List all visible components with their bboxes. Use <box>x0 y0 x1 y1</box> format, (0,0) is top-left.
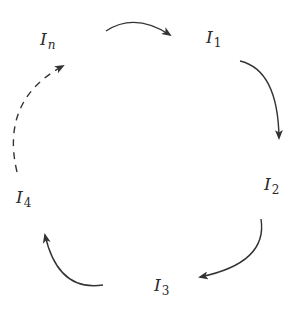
node-subscript: n <box>48 38 56 52</box>
node-subscript: 1 <box>214 36 222 50</box>
node-subscript: 4 <box>24 196 32 210</box>
node-base: I <box>16 187 23 207</box>
edge-i1-to-i2 <box>240 61 279 138</box>
node-subscript: 3 <box>162 284 170 298</box>
node-base: I <box>206 27 213 47</box>
edge-i4-to-in-dashed <box>13 66 63 172</box>
node-subscript: 2 <box>272 183 280 197</box>
node-base: I <box>154 275 161 295</box>
node-label-i1: I1 <box>206 29 221 49</box>
node-label-i3: I3 <box>154 277 169 297</box>
node-label-i2: I2 <box>264 176 279 196</box>
node-base: I <box>40 29 47 49</box>
cycle-diagram: In I1 I2 I3 I4 <box>0 0 290 312</box>
node-label-i4: I4 <box>16 189 31 209</box>
edge-i3-to-i4 <box>45 235 103 286</box>
node-label-in: In <box>40 31 55 51</box>
edge-i2-to-i3 <box>200 219 262 277</box>
node-base: I <box>264 174 271 194</box>
edge-in-to-i1 <box>106 22 170 35</box>
